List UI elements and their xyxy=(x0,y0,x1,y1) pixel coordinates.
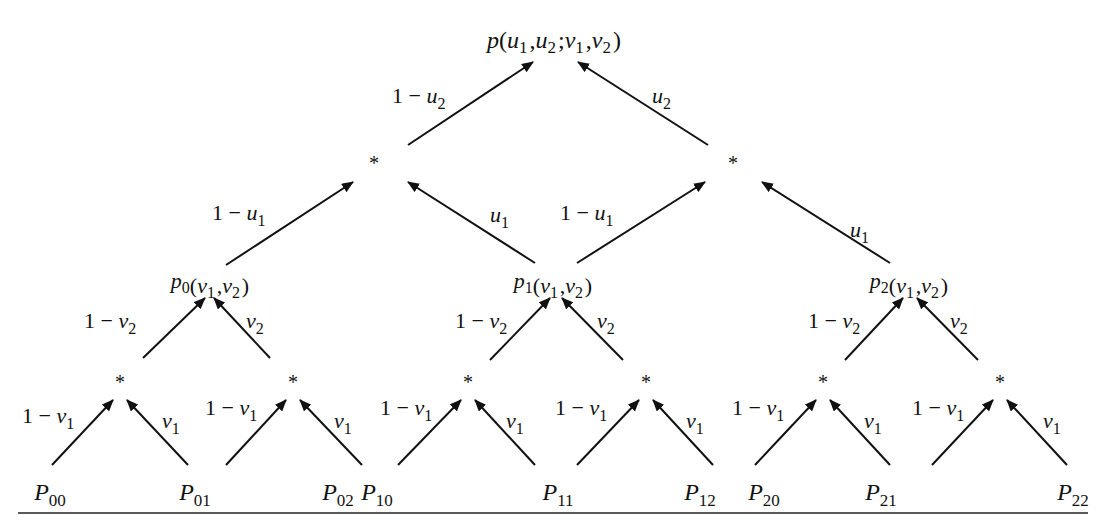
edges-group: 1 − u2u21 − u1u11 − u1u11 − ν2ν21 − ν2ν2… xyxy=(22,62,1067,465)
edge-weight-label: 1 − ν1 xyxy=(732,395,784,424)
control-point-label: P00 xyxy=(33,479,66,510)
product-star-node: * xyxy=(995,371,1005,393)
product-star-node: * xyxy=(369,152,379,174)
edge-weight-label: ν1 xyxy=(686,408,704,437)
edge-weight-label: 1 − ν2 xyxy=(455,308,507,337)
edge-arrow xyxy=(653,400,713,465)
intermediate-node-label: p1(ν1 ,ν2 ) xyxy=(512,268,592,301)
edge-weight-label: ν1 xyxy=(162,408,180,437)
product-star-node: * xyxy=(818,371,828,393)
product-star-node: * xyxy=(288,371,298,393)
edge-weight-label: ν1 xyxy=(1043,408,1061,437)
edge-weight-label: u2 xyxy=(652,83,671,112)
edge-weight-label: 1 − ν1 xyxy=(22,403,74,432)
intermediate-node-label: p2(ν1 ,ν2 ) xyxy=(868,268,948,301)
edge-weight-label: 1 − ν2 xyxy=(84,308,136,337)
edge-weight-label: u1 xyxy=(490,202,509,231)
edge-arrow xyxy=(475,400,535,465)
intermediate-node-label: p0(ν1 ,ν2 ) xyxy=(169,268,249,301)
control-point-label: P21 xyxy=(864,479,897,510)
control-point-label: P02 xyxy=(321,479,354,510)
edge-arrow xyxy=(917,298,978,360)
edge-weight-label: ν2 xyxy=(246,308,264,337)
edge-weight-label: 1 − ν2 xyxy=(808,308,860,337)
edge-weight-label: ν1 xyxy=(506,408,524,437)
edge-arrow xyxy=(300,400,362,465)
product-star-node: * xyxy=(641,371,651,393)
edge-arrow xyxy=(578,62,708,145)
edge-weight-label: ν1 xyxy=(864,408,882,437)
edge-weight-label: 1 − u1 xyxy=(212,200,265,229)
edge-weight-label: ν2 xyxy=(950,308,968,337)
edge-weight-label: 1 − ν1 xyxy=(555,395,607,424)
edge-weight-label: 1 − ν1 xyxy=(380,395,432,424)
root-node-label: p(u1 ,u2 ;ν1 ,ν2 ) xyxy=(485,27,621,57)
control-point-label: P22 xyxy=(1056,479,1089,510)
product-star-node: * xyxy=(728,152,738,174)
edge-weight-label: ν2 xyxy=(597,308,615,337)
control-point-label: P10 xyxy=(360,479,393,510)
edge-weight-label: ν1 xyxy=(334,408,352,437)
evaluation-tree-diagram: 1 − u2u21 − u1u11 − u1u11 − ν2ν21 − ν2ν2… xyxy=(0,0,1109,526)
product-star-node: * xyxy=(463,371,473,393)
edge-arrow xyxy=(143,298,205,358)
product-star-node: * xyxy=(115,371,125,393)
control-point-label: P01 xyxy=(178,479,211,510)
edge-arrow xyxy=(762,182,890,263)
nodes-group: p(u1 ,u2 ;ν1 ,ν2 )********p0(ν1 ,ν2 )p1(… xyxy=(33,27,1089,510)
control-point-label: P11 xyxy=(541,479,573,510)
edge-weight-label: 1 − u2 xyxy=(392,83,445,112)
edge-weight-label: u1 xyxy=(850,217,869,246)
control-point-label: P12 xyxy=(683,479,716,510)
edge-weight-label: 1 − ν1 xyxy=(205,395,257,424)
edge-arrow xyxy=(408,182,535,263)
control-point-label: P20 xyxy=(747,479,780,510)
edge-weight-label: 1 − u1 xyxy=(560,200,613,229)
edge-weight-label: 1 − ν1 xyxy=(912,395,964,424)
